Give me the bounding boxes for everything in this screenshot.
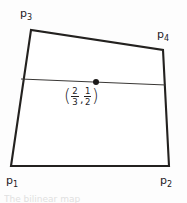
coordinate-separator: ,: [80, 94, 84, 107]
close-paren: ): [92, 88, 99, 105]
vertex-label-p2-base: p: [160, 174, 167, 187]
open-paren: (: [64, 88, 71, 105]
vertex-label-p3-subscript: 3: [27, 13, 32, 22]
marked-point-dot: [93, 79, 99, 85]
fraction-x: 2 3: [71, 87, 78, 107]
fraction-x-denominator: 3: [71, 98, 78, 107]
vertex-label-p1-subscript: 1: [13, 180, 18, 189]
fraction-y-numerator: 1: [84, 87, 91, 96]
figure-container: p3 p4 p1 p2 ( 2 3 , 1 2 ) The bilinear m…: [0, 0, 187, 203]
bottom-clipped-caption: The bilinear map: [4, 194, 187, 203]
vertex-label-p2: p2: [160, 175, 172, 189]
fraction-x-numerator: 2: [71, 87, 78, 96]
vertex-label-p2-subscript: 2: [167, 180, 172, 189]
vertex-label-p3-base: p: [20, 7, 27, 20]
vertex-label-p3: p3: [20, 8, 32, 22]
vertex-label-p1-base: p: [6, 174, 13, 187]
vertex-label-p4: p4: [157, 29, 169, 43]
vertex-label-p4-subscript: 4: [164, 34, 169, 43]
fraction-y: 1 2: [84, 87, 91, 107]
fraction-y-denominator: 2: [84, 98, 91, 107]
vertex-label-p1: p1: [6, 175, 18, 189]
point-coordinate-label: ( 2 3 , 1 2 ): [64, 87, 99, 107]
vertex-label-p4-base: p: [157, 28, 164, 41]
